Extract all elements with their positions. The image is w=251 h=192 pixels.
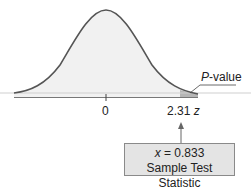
tick-label-zero: 0 [102,104,109,118]
test-statistic-box: x = 0.833 Sample Test Statistic [124,143,235,176]
pvalue-p: P [201,70,209,84]
pvalue-rest: -value [209,70,242,84]
box-line2: Sample Test Statistic [125,161,234,191]
pvalue-label: P-value [201,70,242,84]
tick-label-stat: 2.31 z [167,104,200,118]
box-line1: x = 0.833 [125,146,234,161]
pvalue-leader-line [190,85,236,93]
tick-stat-value: 2.31 [167,104,190,118]
axis-variable: z [194,104,200,118]
box-value: = 0.833 [161,146,205,160]
arrow-head-icon [178,122,184,129]
